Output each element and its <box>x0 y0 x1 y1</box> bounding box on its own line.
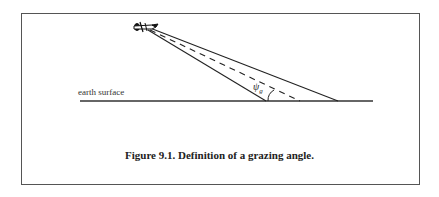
beam-lower-edge <box>148 30 266 101</box>
earth-surface-label: earth surface <box>78 87 124 97</box>
grazing-angle-label: ψg <box>253 81 263 95</box>
grazing-angle-diagram <box>0 0 439 197</box>
figure-caption: Figure 9.1. Definition of a grazing angl… <box>0 149 439 161</box>
grazing-angle-arc <box>268 90 274 101</box>
beam-centerline <box>150 30 300 101</box>
angle-subscript: g <box>259 87 263 95</box>
aircraft-icon <box>134 22 158 32</box>
beam-upper-edge <box>150 28 338 101</box>
